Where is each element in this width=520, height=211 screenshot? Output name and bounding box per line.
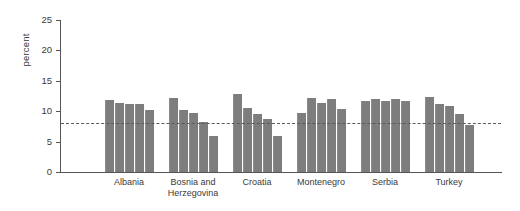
reference-line bbox=[61, 123, 501, 124]
plot-area bbox=[60, 20, 500, 172]
bar bbox=[179, 110, 188, 172]
bar bbox=[401, 101, 410, 172]
bar bbox=[297, 113, 306, 172]
bar bbox=[209, 136, 218, 172]
y-axis-tick-label: 25 bbox=[12, 15, 52, 25]
bar-chart: percent 0510152025 AlbaniaBosnia and Her… bbox=[0, 0, 520, 211]
bar bbox=[465, 125, 474, 172]
y-axis-tick-label: 15 bbox=[12, 76, 52, 86]
bar bbox=[115, 103, 124, 172]
bar bbox=[243, 108, 252, 172]
bar bbox=[125, 104, 134, 172]
bar bbox=[361, 101, 370, 172]
bar bbox=[169, 98, 178, 172]
bar bbox=[391, 99, 400, 172]
bar bbox=[307, 98, 316, 172]
x-axis-group-label: Turkey bbox=[399, 177, 499, 188]
bar bbox=[337, 109, 346, 172]
bar bbox=[445, 106, 454, 172]
bar bbox=[273, 136, 282, 172]
y-axis-tick-label: 5 bbox=[12, 137, 52, 147]
bar bbox=[425, 97, 434, 172]
bar bbox=[371, 99, 380, 172]
bar bbox=[435, 104, 444, 172]
bar bbox=[145, 110, 154, 172]
bar bbox=[135, 104, 144, 172]
y-axis-tick-mark bbox=[56, 172, 61, 173]
y-axis-tick-label: 10 bbox=[12, 106, 52, 116]
bar bbox=[189, 113, 198, 172]
bar bbox=[327, 99, 336, 172]
bar bbox=[263, 119, 272, 173]
x-axis-line bbox=[60, 172, 502, 173]
bar bbox=[199, 122, 208, 172]
y-axis-tick-label: 20 bbox=[12, 45, 52, 55]
y-axis-tick-label: 0 bbox=[12, 167, 52, 177]
bar bbox=[233, 94, 242, 172]
bar bbox=[317, 103, 326, 172]
bar bbox=[105, 100, 114, 172]
bar bbox=[381, 101, 390, 172]
